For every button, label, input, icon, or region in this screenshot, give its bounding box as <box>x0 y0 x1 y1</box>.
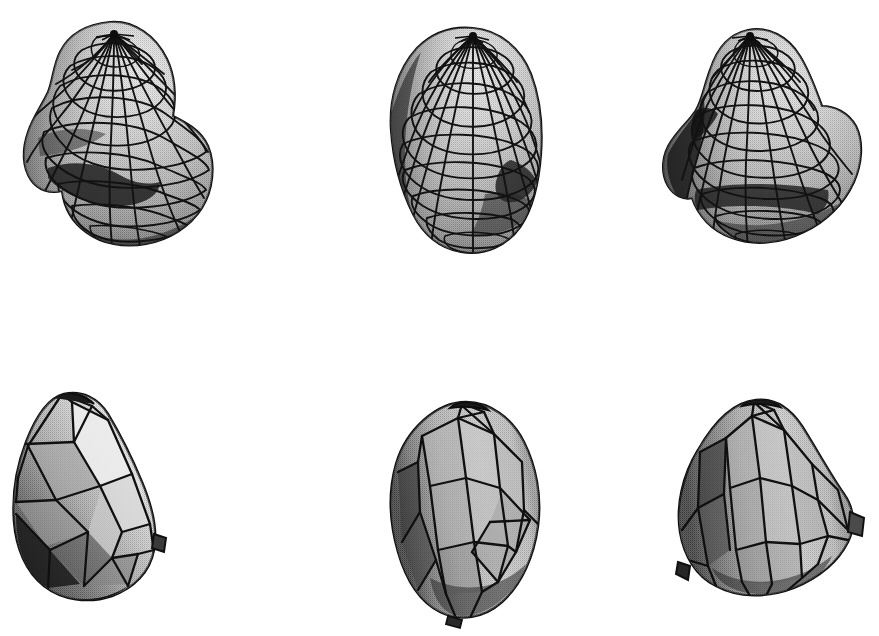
shape-6-body <box>668 390 872 618</box>
shape-1-svg <box>10 10 230 255</box>
shape-3-body <box>652 14 874 259</box>
shape-2-body <box>365 14 575 264</box>
shape-1-blob-top-left <box>10 10 230 255</box>
shape-1-body <box>10 10 230 255</box>
shape-2-svg <box>365 14 575 264</box>
shape-4-polyhedral-bottom-left <box>4 382 176 614</box>
shape-6-left-spur <box>676 562 690 580</box>
shape-5-svg <box>374 392 564 630</box>
shape-4-right-spur <box>152 534 166 552</box>
shape-3-svg <box>652 14 874 259</box>
shape-3-blob-top-right <box>652 14 874 259</box>
shape-4-body <box>4 382 176 614</box>
shape-5-polyhedral-bottom-center <box>374 392 564 630</box>
shape-6-right-protrusion <box>848 512 864 536</box>
figure-canvas: Six shaded 3D mesh surfaces <box>0 0 879 636</box>
shape-6-polyhedral-bottom-right <box>668 390 872 618</box>
shape-4-svg <box>4 382 176 614</box>
shape-5-body <box>374 392 564 630</box>
shape-2-blob-top-center <box>365 14 575 264</box>
shape-6-svg <box>668 390 872 618</box>
